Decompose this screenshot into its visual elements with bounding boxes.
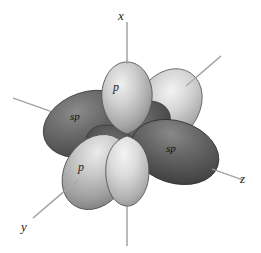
p-orbital-top-label: p bbox=[113, 81, 119, 93]
p-orbital-lobe-bottom bbox=[106, 136, 149, 206]
p-orbital-front-label: p bbox=[78, 161, 84, 173]
x-axis-label: x bbox=[118, 9, 124, 22]
z-axis-label: z bbox=[240, 172, 245, 185]
sp-orbital-right-label: sp bbox=[166, 143, 176, 154]
z-axis-right-segment bbox=[212, 169, 243, 180]
z-axis-left-segment bbox=[13, 98, 50, 111]
sp-orbital-left-label: sp bbox=[70, 111, 80, 122]
orbital-diagram-canvas bbox=[0, 0, 261, 253]
y-axis-label: y bbox=[21, 220, 27, 233]
y-axis-upper-segment bbox=[186, 56, 221, 86]
orbital-diagram-figure: x y z p p sp sp bbox=[0, 0, 261, 253]
